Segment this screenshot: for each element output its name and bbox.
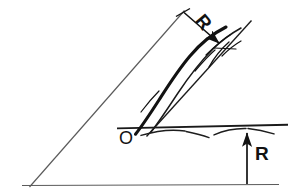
tangent-straight-line — [147, 21, 252, 137]
lower-ground-line — [22, 185, 279, 186]
radius-label-bottom: R — [255, 144, 269, 163]
ground-hatch-mark — [186, 131, 209, 137]
figure-canvas: R R O — [0, 0, 288, 193]
origin-label: O — [119, 129, 133, 147]
line-drawing-svg — [0, 0, 288, 193]
trajectory-curve — [136, 27, 227, 134]
ground-hatch-mark — [214, 129, 246, 135]
ground-hatch-mark — [248, 129, 274, 134]
ground-hatch-marks — [141, 129, 274, 138]
